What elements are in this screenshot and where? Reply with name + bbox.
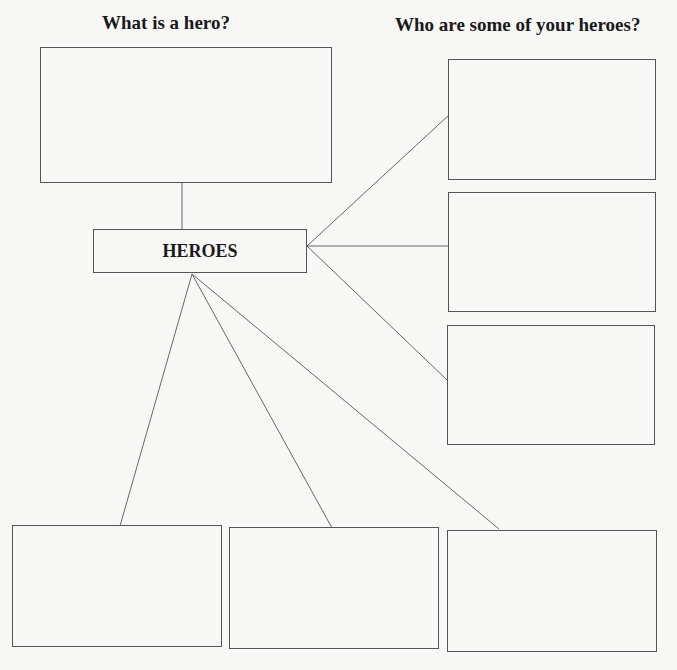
center-node-heroes: HEROES: [93, 229, 307, 273]
hero-box-bottom-2[interactable]: [229, 527, 439, 649]
connector-right-3: [307, 246, 447, 380]
hero-box-bottom-1[interactable]: [12, 525, 222, 647]
hero-box-bottom-3[interactable]: [447, 530, 657, 652]
hero-box-right-1[interactable]: [448, 59, 656, 180]
hero-box-right-3[interactable]: [447, 325, 655, 445]
definition-box[interactable]: [40, 47, 332, 183]
hero-box-right-2[interactable]: [448, 192, 656, 312]
connector-bottom-1: [120, 274, 192, 526]
connector-bottom-2: [192, 274, 332, 528]
